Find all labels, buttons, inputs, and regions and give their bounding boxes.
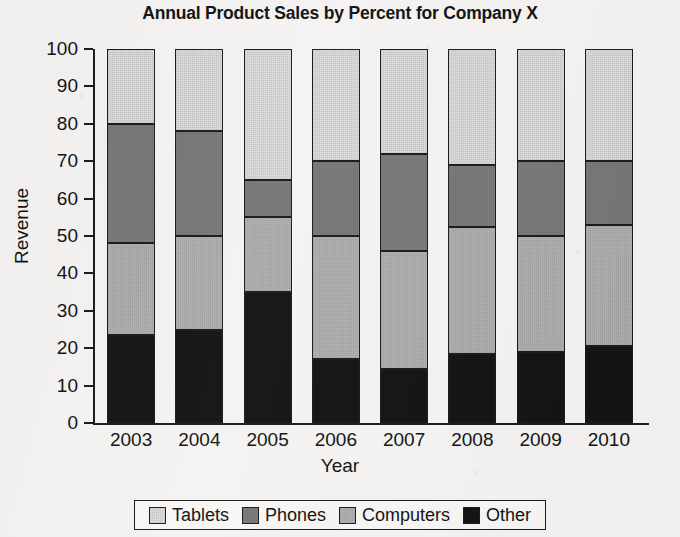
bar-segment-2010-other[interactable] (585, 346, 633, 423)
y-tick-mark (84, 85, 93, 87)
bar-segment-2003-tablets[interactable] (107, 49, 155, 124)
legend-swatch-icon (339, 507, 356, 524)
y-tick-mark (84, 198, 93, 200)
x-tick-label-2007: 2007 (369, 429, 439, 451)
y-tick-mark (84, 422, 93, 424)
y-tick-label: 70 (18, 151, 78, 170)
y-tick-mark (84, 347, 93, 349)
y-tick-mark (84, 310, 93, 312)
y-tick-label: 20 (18, 338, 78, 357)
bar-segment-2006-other[interactable] (312, 359, 360, 423)
y-tick-label: 100 (18, 39, 78, 58)
y-tick-label: 90 (18, 76, 78, 95)
y-tick-mark (84, 160, 93, 162)
bar-segment-2008-phones[interactable] (448, 165, 496, 227)
bar-segment-2003-computers[interactable] (107, 243, 155, 335)
bar-segment-2009-other[interactable] (517, 352, 565, 423)
bar-segment-2005-phones[interactable] (244, 180, 292, 217)
x-tick-label-2008: 2008 (437, 429, 507, 451)
bar-segment-2004-computers[interactable] (175, 236, 223, 330)
bar-segment-2010-computers[interactable] (585, 225, 633, 347)
legend-swatch-icon (149, 507, 166, 524)
legend-item-other[interactable]: Other (463, 506, 531, 524)
legend-item-computers[interactable]: Computers (339, 506, 450, 524)
bar-2009[interactable] (517, 49, 565, 423)
legend-item-phones[interactable]: Phones (242, 506, 326, 524)
x-axis-title: Year (0, 455, 680, 477)
y-tick-label: 10 (18, 376, 78, 395)
x-tick-label-2003: 2003 (96, 429, 166, 451)
bar-segment-2007-computers[interactable] (380, 251, 428, 369)
x-tick-label-2006: 2006 (301, 429, 371, 451)
legend-label: Phones (265, 506, 326, 524)
bar-segment-2006-phones[interactable] (312, 161, 360, 236)
bar-segment-2004-other[interactable] (175, 330, 223, 424)
chart-title: Annual Product Sales by Percent for Comp… (0, 3, 680, 24)
y-tick-label: 50 (18, 226, 78, 245)
bar-segment-2004-tablets[interactable] (175, 49, 223, 131)
x-tick-label-2009: 2009 (506, 429, 576, 451)
bar-segment-2006-computers[interactable] (312, 236, 360, 359)
bar-2006[interactable] (312, 49, 360, 423)
bar-2007[interactable] (380, 49, 428, 423)
y-tick-mark (84, 123, 93, 125)
y-tick-label: 30 (18, 301, 78, 320)
bar-segment-2009-phones[interactable] (517, 161, 565, 236)
y-tick-label: 0 (18, 413, 78, 432)
legend-label: Other (486, 506, 531, 524)
bar-2010[interactable] (585, 49, 633, 423)
legend-label: Tablets (172, 506, 229, 524)
bar-segment-2003-phones[interactable] (107, 124, 155, 244)
y-tick-mark (84, 235, 93, 237)
x-tick-label-2004: 2004 (164, 429, 234, 451)
bar-segment-2010-tablets[interactable] (585, 49, 633, 161)
bar-segment-2005-computers[interactable] (244, 217, 292, 292)
legend-label: Computers (362, 506, 450, 524)
chart-legend: TabletsPhonesComputersOther (134, 500, 546, 530)
plot-area (97, 49, 643, 423)
y-tick-mark (84, 48, 93, 50)
bar-segment-2008-computers[interactable] (448, 227, 496, 354)
legend-swatch-icon (242, 507, 259, 524)
bar-segment-2005-tablets[interactable] (244, 49, 292, 180)
x-tick-label-2005: 2005 (233, 429, 303, 451)
bar-segment-2005-other[interactable] (244, 292, 292, 423)
y-axis-line (93, 49, 95, 425)
bar-2005[interactable] (244, 49, 292, 423)
bar-2003[interactable] (107, 49, 155, 423)
x-axis-line (93, 423, 649, 425)
y-tick-label: 80 (18, 114, 78, 133)
bar-segment-2008-other[interactable] (448, 354, 496, 423)
legend-item-tablets[interactable]: Tablets (149, 506, 229, 524)
bar-segment-2007-other[interactable] (380, 369, 428, 423)
bar-segment-2008-tablets[interactable] (448, 49, 496, 165)
bar-segment-2003-other[interactable] (107, 335, 155, 423)
bar-2008[interactable] (448, 49, 496, 423)
bar-segment-2009-computers[interactable] (517, 236, 565, 352)
chart-page: Annual Product Sales by Percent for Comp… (0, 0, 680, 537)
legend-swatch-icon (463, 507, 480, 524)
y-tick-mark (84, 385, 93, 387)
y-tick-label: 40 (18, 263, 78, 282)
bar-segment-2009-tablets[interactable] (517, 49, 565, 161)
bar-segment-2007-phones[interactable] (380, 154, 428, 251)
bar-segment-2004-phones[interactable] (175, 131, 223, 236)
bar-segment-2007-tablets[interactable] (380, 49, 428, 154)
bar-2004[interactable] (175, 49, 223, 423)
y-tick-mark (84, 272, 93, 274)
x-tick-label-2010: 2010 (574, 429, 644, 451)
bar-segment-2006-tablets[interactable] (312, 49, 360, 161)
y-tick-label: 60 (18, 189, 78, 208)
bar-segment-2010-phones[interactable] (585, 161, 633, 225)
